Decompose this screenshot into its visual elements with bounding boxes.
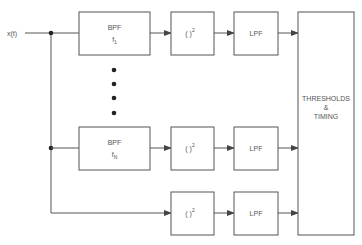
bpf-title-n: BPF (108, 139, 122, 146)
lpf-label-1: LPF (250, 30, 263, 37)
row-direct: ( )2 LPF (171, 192, 298, 235)
input-label: x(t) (7, 30, 17, 38)
bpf-box-n (79, 127, 150, 170)
bpf-title-1: BPF (108, 24, 122, 31)
row-n: BPF fN ( )2 LPF (79, 127, 298, 170)
square-box-1 (171, 12, 214, 55)
square-box-n (171, 127, 214, 170)
row-1: BPF f1 ( )2 LPF (79, 12, 298, 55)
filter-bank-diagram: x(t) BPF f1 ( )2 LPF BPF fN ( )2 LPF (0, 0, 362, 245)
thresholds-timing-block: THRESHOLDS & TIMING (298, 12, 354, 235)
thresholds-box (298, 12, 354, 235)
thresholds-line-2: & (324, 104, 329, 111)
thresholds-line-1: THRESHOLDS (302, 95, 350, 102)
thresholds-line-3: TIMING (314, 113, 339, 120)
lpf-label-n: LPF (250, 145, 263, 152)
square-box-direct (171, 192, 214, 235)
lpf-label-direct: LPF (250, 210, 263, 217)
junction-dot-1 (49, 31, 54, 36)
ellipsis-dots (112, 68, 117, 116)
bpf-box-1 (79, 12, 150, 55)
